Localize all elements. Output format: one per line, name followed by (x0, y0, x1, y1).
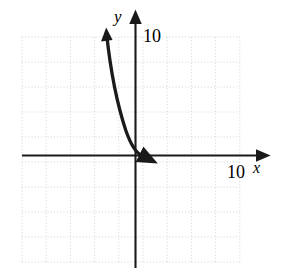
curve-upper-arrowhead (101, 28, 113, 42)
x-axis-tick-label-10: 10 (227, 163, 245, 181)
y-axis-label: y (114, 8, 122, 25)
coordinate-plane (0, 0, 282, 275)
y-axis-tick-label-10: 10 (143, 27, 161, 45)
grid-lines (22, 37, 240, 262)
x-axis-label: x (253, 160, 260, 176)
graph-figure: y 10 10 x (0, 0, 282, 275)
